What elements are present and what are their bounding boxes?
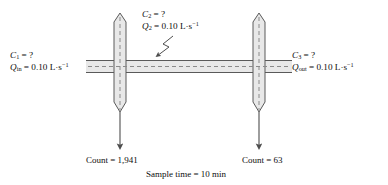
sample-time-caption: Sample time = 10 min (146, 169, 226, 180)
inlet-flow-sub: in (17, 65, 22, 72)
inlet-concentration-sub: 1 (16, 53, 19, 60)
count-left-equals: = (110, 155, 115, 165)
inlet-concentration-equals: = (22, 50, 27, 60)
outlet-concentration-sub: 3 (298, 53, 301, 60)
outlet-concentration-value: ? (311, 50, 315, 60)
branch-concentration-value: ? (161, 9, 165, 19)
inlet-flow-units: L·s (50, 61, 62, 71)
count-left-label: Count (86, 155, 108, 165)
branch-concentration-line: C2 = ? (142, 9, 199, 20)
leader-line-branch (157, 36, 173, 56)
branch-concentration-sub: 2 (148, 12, 151, 19)
branch-annotation: C2 = ? Q2 = 0.10 L·s−1 (142, 9, 199, 31)
inlet-flow-symbol: Q (10, 61, 17, 71)
sample-time-equals: = (194, 169, 199, 179)
branch-flow-equals: = (154, 20, 159, 30)
inlet-flow-line: Qin = 0.10 L·s−1 (10, 61, 69, 72)
outlet-annotation: C3 = ? Qout = 0.10 L·s−1 (292, 50, 354, 72)
sample-time-label: Sample time (146, 169, 191, 179)
branch-flow-sub: 2 (149, 24, 152, 31)
inlet-flow-value: 0.10 (31, 61, 47, 71)
count-left-annotation: Count = 1,941 (86, 155, 138, 166)
branch-concentration-equals: = (154, 9, 159, 19)
branch-flow-line: Q2 = 0.10 L·s−1 (142, 20, 199, 31)
count-left-value: 1,941 (118, 155, 138, 165)
inlet-concentration-value: ? (29, 50, 33, 60)
outlet-flow-equals: = (309, 61, 314, 71)
outlet-flow-value: 0.10 (316, 61, 332, 71)
branch-flow-units: L·s (180, 20, 192, 30)
inlet-flow-units-exponent: −1 (62, 61, 69, 68)
sample-time-value: 10 (201, 169, 210, 179)
sample-time-units: min (212, 169, 226, 179)
count-right-annotation: Count = 63 (242, 155, 283, 166)
outlet-flow-units: L·s (335, 61, 347, 71)
outlet-flow-units-exponent: −1 (347, 61, 354, 68)
diagram-canvas: C1 = ? Qin = 0.10 L·s−1 C2 = ? Q2 = 0.10… (0, 0, 388, 185)
branch-flow-units-exponent: −1 (192, 20, 199, 27)
count-right-value: 63 (274, 155, 283, 165)
outlet-flow-line: Qout = 0.10 L·s−1 (292, 61, 354, 72)
outlet-concentration-equals: = (304, 50, 309, 60)
inlet-flow-equals: = (24, 61, 29, 71)
outlet-flow-sub: out (299, 65, 307, 72)
count-right-equals: = (266, 155, 271, 165)
count-right-label: Count (242, 155, 264, 165)
outlet-flow-symbol: Q (292, 61, 299, 71)
inlet-annotation: C1 = ? Qin = 0.10 L·s−1 (10, 50, 69, 72)
branch-flow-symbol: Q (142, 20, 149, 30)
branch-flow-value: 0.10 (162, 20, 178, 30)
inlet-concentration-line: C1 = ? (10, 50, 69, 61)
outlet-concentration-line: C3 = ? (292, 50, 354, 61)
